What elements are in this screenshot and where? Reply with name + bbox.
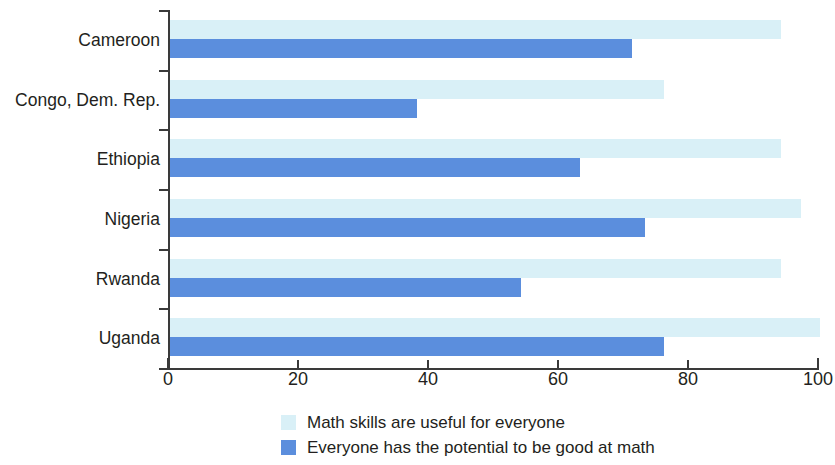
bar (170, 199, 801, 218)
bar (170, 99, 417, 118)
bar (170, 318, 820, 337)
x-axis-line (168, 368, 818, 370)
legend: Math skills are useful for everyone Ever… (281, 410, 701, 460)
y-axis-tick (159, 308, 169, 310)
bar (170, 80, 664, 99)
bar-group (170, 70, 820, 130)
y-axis-tick (159, 249, 169, 251)
bar-group (170, 189, 820, 249)
bar-group (170, 10, 820, 70)
x-axis-tick-label: 60 (548, 368, 568, 390)
bar (170, 139, 781, 158)
bar (170, 20, 781, 39)
legend-item-0: Math skills are useful for everyone (281, 410, 701, 435)
y-axis-tick (159, 189, 169, 191)
bar-chart: Cameroon Congo, Dem. Rep. Ethiopia Niger… (0, 0, 835, 465)
x-axis-tick-label: 20 (288, 368, 308, 390)
y-axis-label-0: Cameroon (2, 30, 160, 50)
bar (170, 259, 781, 278)
x-axis-tick-label: 0 (163, 368, 173, 390)
y-axis-label-5: Uganda (2, 328, 160, 348)
x-axis-tick-label: 80 (678, 368, 698, 390)
y-axis-label-4: Rwanda (2, 269, 160, 289)
y-axis-label-1: Congo, Dem. Rep. (2, 90, 160, 110)
bar (170, 278, 521, 297)
legend-item-1: Everyone has the potential to be good at… (281, 435, 701, 460)
bar (170, 218, 645, 237)
y-axis-label-3: Nigeria (2, 209, 160, 229)
legend-label-1: Everyone has the potential to be good at… (307, 438, 655, 458)
legend-swatch-dark-icon (281, 440, 296, 455)
x-axis-tick-label: 100 (803, 368, 833, 390)
bar-group (170, 308, 820, 368)
legend-swatch-light-icon (281, 415, 296, 430)
y-axis-label-2: Ethiopia (2, 149, 160, 169)
y-axis-category-labels: Cameroon Congo, Dem. Rep. Ethiopia Niger… (0, 10, 160, 368)
x-axis-tick-label: 40 (418, 368, 438, 390)
bar-group (170, 129, 820, 189)
bar-group (170, 249, 820, 309)
y-axis-tick (159, 129, 169, 131)
bar (170, 337, 664, 356)
bar (170, 39, 632, 58)
legend-label-0: Math skills are useful for everyone (307, 413, 565, 433)
y-axis-tick (159, 70, 169, 72)
y-axis-tick (159, 10, 169, 12)
bar (170, 158, 580, 177)
plot-area (168, 10, 818, 368)
